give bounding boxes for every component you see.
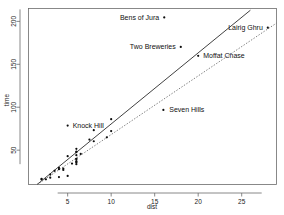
data-point: [62, 167, 64, 169]
scatter-plot-figure: 510152025 50100150200 Bens of JuraLairig…: [0, 0, 284, 215]
y-tick-label: 50: [10, 146, 17, 154]
x-tick-label: 20: [195, 198, 203, 205]
y-tick-label: 200: [10, 16, 17, 27]
data-point: [75, 161, 77, 163]
data-point: [54, 170, 56, 172]
x-tick-label: 25: [238, 198, 246, 205]
plot-frame: [29, 9, 277, 185]
point-label: Lairig Ghru: [228, 24, 263, 32]
point-label: Seven Hills: [169, 106, 205, 113]
x-tick-label: 10: [108, 198, 116, 205]
data-point: [67, 155, 69, 157]
data-point: [75, 151, 77, 153]
data-point: [75, 154, 77, 156]
y-axis: 50100150200: [10, 9, 20, 164]
data-point: [75, 158, 77, 160]
point-label: Bens of Jura: [120, 14, 159, 21]
data-point: [267, 27, 269, 29]
plot-canvas: 510152025 50100150200 Bens of JuraLairig…: [0, 0, 284, 215]
data-point: [163, 16, 165, 18]
data-point: [110, 130, 112, 132]
y-tick-label: 100: [10, 101, 17, 112]
data-point: [49, 177, 51, 179]
data-point: [180, 46, 182, 48]
data-point: [106, 136, 108, 138]
y-axis-title: time: [3, 93, 10, 106]
point-label: Moffat Chase: [203, 52, 245, 59]
point-label: Two Breweries: [130, 43, 176, 50]
point-label: Knock Hill: [73, 122, 105, 129]
point-annotations: Bens of JuraLairig GhruTwo BreweriesMoff…: [73, 14, 263, 129]
data-point: [110, 118, 112, 120]
data-point: [49, 173, 51, 175]
y-tick-label: 150: [10, 59, 17, 70]
data-point: [93, 129, 95, 131]
data-point: [67, 124, 69, 126]
data-point: [40, 178, 42, 180]
data-point: [58, 167, 60, 169]
data-point: [80, 153, 82, 155]
regression-lines: [37, 10, 276, 184]
data-point: [67, 175, 69, 177]
data-point: [162, 109, 164, 111]
data-point: [88, 139, 90, 141]
data-point: [58, 176, 60, 178]
x-axis-title: dist: [147, 203, 157, 210]
data-points: [40, 16, 268, 180]
regression-line-least-squares-fit: [37, 10, 250, 184]
data-point: [93, 140, 95, 142]
data-point: [71, 162, 73, 164]
data-point: [45, 178, 47, 180]
data-point: [197, 55, 199, 57]
x-tick-label: 5: [66, 198, 70, 205]
data-point: [75, 148, 77, 150]
x-axis: 510152025: [58, 193, 262, 205]
